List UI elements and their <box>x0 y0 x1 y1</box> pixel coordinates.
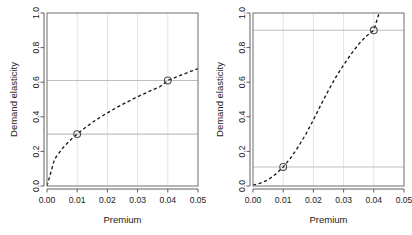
x-axis: 0.000.010.020.030.040.05 <box>245 189 412 205</box>
x-tick-label: 0.00 <box>39 195 56 205</box>
y-axis-title: Demand elasticity <box>214 62 225 137</box>
y-tick-label: 1.0 <box>31 7 41 19</box>
plot-svg: 0.000.010.020.030.040.05Premium0.00.20.4… <box>0 0 206 235</box>
y-tick-label: 0.0 <box>237 180 247 192</box>
x-tick-label: 0.03 <box>129 195 146 205</box>
figure-root: 0.000.010.020.030.040.05Premium0.00.20.4… <box>0 0 412 235</box>
y-tick-label: 0.4 <box>237 111 247 123</box>
y-axis: 0.00.20.40.60.81.0 <box>237 7 250 192</box>
x-axis: 0.000.010.020.030.040.05 <box>39 189 206 205</box>
y-tick-label: 0.6 <box>31 76 41 88</box>
x-tick-label: 0.05 <box>396 195 412 205</box>
x-tick-label: 0.02 <box>99 195 116 205</box>
plot-area <box>253 13 404 186</box>
x-axis-title: Premium <box>103 214 141 225</box>
y-axis-title: Demand elasticity <box>8 62 19 137</box>
y-axis: 0.00.20.40.60.81.0 <box>31 7 44 192</box>
plot-area <box>47 13 198 186</box>
y-tick-label: 0.0 <box>31 180 41 192</box>
x-tick-label: 0.00 <box>245 195 262 205</box>
x-tick-label: 0.02 <box>305 195 322 205</box>
y-tick-label: 0.2 <box>237 145 247 157</box>
chart-panel-right: 0.000.010.020.030.040.05Premium0.00.20.4… <box>206 0 412 235</box>
x-tick-label: 0.04 <box>159 195 176 205</box>
y-tick-label: 0.4 <box>31 111 41 123</box>
x-axis-title: Premium <box>309 214 347 225</box>
y-tick-label: 0.8 <box>31 41 41 53</box>
x-tick-label: 0.04 <box>365 195 382 205</box>
x-tick-label: 0.05 <box>190 195 206 205</box>
x-tick-label: 0.03 <box>335 195 352 205</box>
x-tick-label: 0.01 <box>69 195 86 205</box>
chart-panel-left: 0.000.010.020.030.040.05Premium0.00.20.4… <box>0 0 206 235</box>
y-tick-label: 1.0 <box>237 7 247 19</box>
y-tick-label: 0.6 <box>237 76 247 88</box>
x-tick-label: 0.01 <box>275 195 292 205</box>
plot-svg: 0.000.010.020.030.040.05Premium0.00.20.4… <box>206 0 412 235</box>
y-tick-label: 0.2 <box>31 145 41 157</box>
y-tick-label: 0.8 <box>237 41 247 53</box>
